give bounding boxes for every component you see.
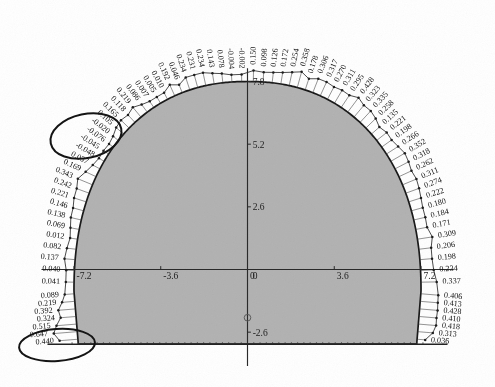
displacement-node	[132, 106, 135, 109]
displacement-leader	[354, 105, 364, 117]
displacement-leader	[409, 198, 421, 202]
displacement-leader	[418, 324, 436, 325]
displacement-node	[272, 71, 275, 74]
displacement-leader	[406, 188, 419, 193]
displacement-leader	[77, 189, 90, 194]
displacement-leader	[386, 146, 398, 154]
displacement-leader	[212, 73, 214, 84]
displacement-node	[407, 161, 410, 164]
displacement-node	[63, 258, 66, 261]
displacement-leader	[348, 98, 359, 112]
displacement-node	[424, 339, 427, 342]
displacement-value-label-72: 0.137	[40, 252, 59, 262]
y-axis-tick-label-4: -2.6	[253, 328, 268, 338]
displacement-leader	[395, 162, 409, 169]
tunnel-cross-section-plot: -7.2-3.603.67.27.85.22.60-2.60.0360.3130…	[0, 0, 495, 387]
x-axis-tick-label-0: -7.2	[76, 271, 91, 281]
displacement-value-label-8: 0.234	[439, 264, 458, 274]
displacement-leader	[281, 73, 283, 84]
displacement-leader	[289, 72, 292, 85]
displacement-node	[420, 197, 423, 200]
displacement-leader	[420, 259, 432, 260]
displacement-node	[378, 126, 381, 129]
displacement-leader	[179, 85, 182, 93]
displacement-leader	[382, 140, 392, 147]
displacement-leader	[419, 248, 431, 249]
displacement-value-label-12: 0.171	[432, 218, 452, 230]
y-axis-tick-label-1: 5.2	[253, 140, 265, 150]
displacement-leader	[420, 301, 438, 302]
displacement-node	[156, 96, 159, 99]
displacement-leader	[334, 90, 342, 103]
displacement-node	[385, 131, 388, 134]
displacement-value-label-42: -0.004	[226, 48, 236, 69]
displacement-node	[435, 281, 438, 284]
displacement-node	[437, 294, 440, 297]
displacement-node	[436, 309, 439, 312]
displacement-leader	[411, 208, 422, 211]
displacement-leader	[414, 217, 426, 220]
displacement-node	[430, 247, 433, 250]
displacement-node	[230, 74, 233, 77]
displacement-leader	[327, 87, 334, 99]
displacement-node	[63, 293, 66, 296]
displacement-leader	[420, 309, 438, 310]
displacement-node	[435, 317, 438, 320]
displacement-node	[55, 324, 58, 327]
displacement-node	[363, 104, 366, 107]
displacement-node	[115, 126, 118, 129]
displacement-value-label-6: 0.406	[444, 291, 463, 301]
displacement-node	[58, 339, 61, 342]
displacement-node	[61, 301, 64, 304]
displacement-node	[77, 177, 80, 180]
displacement-leader	[121, 120, 129, 128]
displacement-leader	[56, 324, 76, 326]
displacement-node	[69, 226, 72, 229]
displacement-leader	[320, 82, 326, 96]
displacement-node	[281, 71, 284, 74]
displacement-node	[410, 170, 413, 173]
displacement-node	[70, 216, 73, 219]
displacement-node	[397, 145, 400, 148]
displacement-leader	[203, 73, 206, 86]
displacement-node	[184, 76, 187, 79]
displacement-leader	[417, 237, 432, 239]
displacement-node	[415, 178, 418, 181]
displacement-leader	[65, 294, 74, 295]
displacement-node	[98, 157, 101, 160]
displacement-node	[317, 77, 320, 80]
displacement-leader	[73, 208, 84, 211]
displacement-node	[178, 84, 181, 87]
displacement-value-label-73: 0.040	[42, 264, 61, 274]
x-axis-tick-label-1: -3.6	[163, 271, 178, 281]
displacement-leader	[74, 198, 86, 202]
displacement-node	[84, 171, 87, 174]
displacement-leader	[128, 115, 135, 122]
displacement-node	[262, 71, 265, 74]
displacement-leader	[64, 259, 75, 260]
displacement-node	[120, 119, 123, 122]
displacement-leader	[366, 119, 376, 129]
displacement-leader	[62, 301, 75, 302]
displacement-node	[112, 135, 115, 138]
displacement-leader	[78, 179, 93, 185]
displacement-leader	[272, 72, 273, 82]
displacement-leader	[194, 75, 197, 88]
displacement-node	[431, 257, 434, 260]
displacement-node	[193, 74, 196, 77]
displacement-leader	[421, 294, 438, 295]
displacement-node	[369, 110, 372, 113]
displacement-node	[240, 73, 243, 76]
displacement-node	[435, 324, 438, 327]
displacement-node	[426, 226, 429, 229]
displacement-leader	[402, 179, 416, 185]
displacement-node	[308, 78, 311, 81]
displacement-leader	[86, 172, 96, 177]
displacement-leader	[419, 316, 437, 317]
displacement-node	[53, 332, 56, 335]
displacement-leader	[133, 107, 141, 117]
displacement-node	[432, 332, 435, 335]
displacement-node	[108, 143, 111, 146]
displacement-leader	[67, 248, 76, 249]
displacement-node	[291, 71, 294, 74]
